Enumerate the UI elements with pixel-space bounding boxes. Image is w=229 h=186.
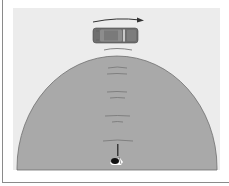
car-icon <box>93 28 138 43</box>
wave-front <box>110 98 125 99</box>
wave-front <box>107 92 127 93</box>
doppler-scene <box>0 0 229 186</box>
wave-front <box>105 116 130 117</box>
wave-front <box>107 74 127 75</box>
wave-front <box>112 122 123 123</box>
